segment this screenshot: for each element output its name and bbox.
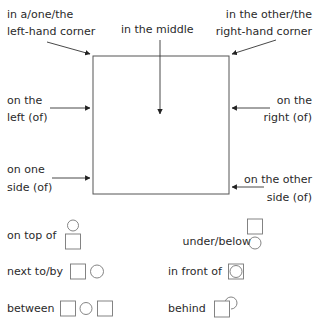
label-right-line1: on the: [277, 92, 312, 109]
label-other-side-line1: on the other: [244, 171, 312, 188]
label-top-left-corner-line1: in a/one/the: [7, 6, 73, 23]
label-top-right-corner-line2: right-hand corner: [216, 23, 312, 40]
label-top-left-corner-line2: left-hand corner: [7, 23, 95, 40]
next-to-by-icon: [69, 262, 107, 282]
label-one-side-line1: on one: [7, 161, 45, 178]
arrow-top-left-corner: [47, 42, 90, 54]
label-next-to-by: next to/by: [7, 263, 63, 280]
label-left-line1: on the: [7, 92, 42, 109]
label-one-side-line2: side (of): [7, 179, 52, 196]
label-other-side-line2: side (of): [267, 189, 312, 206]
on-top-of-icon: [62, 219, 84, 253]
label-left-line2: left (of): [7, 109, 48, 126]
label-top-right-corner-line1: in the other/the: [226, 6, 312, 23]
label-on-top-of: on top of: [7, 227, 56, 244]
label-behind: behind: [168, 300, 206, 317]
label-in-front-of: in front of: [168, 263, 222, 280]
label-right-line2: right (of): [263, 109, 312, 126]
label-under-below: under/below: [183, 233, 251, 250]
under-below-icon: [244, 218, 266, 252]
in-front-of-icon: [227, 262, 247, 282]
label-middle: in the middle: [121, 21, 194, 38]
between-icon: [59, 299, 119, 319]
reference-box: [93, 56, 229, 194]
label-between: between: [7, 300, 55, 317]
behind-icon: [212, 292, 238, 320]
arrow-top-right-corner: [232, 40, 276, 54]
